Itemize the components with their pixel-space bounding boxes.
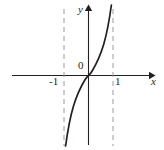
y-axis-arrowhead: [85, 5, 92, 12]
x-axis: [12, 72, 156, 79]
tick-label-negative-one: -1: [49, 76, 58, 87]
tick-label-one: 1: [115, 76, 121, 87]
function-graph-figure: -1 1 0 x y: [0, 0, 164, 150]
x-axis-label: x: [151, 76, 156, 87]
graph-canvas: [0, 0, 164, 150]
y-axis-label: y: [78, 4, 83, 15]
origin-label: 0: [78, 60, 84, 71]
